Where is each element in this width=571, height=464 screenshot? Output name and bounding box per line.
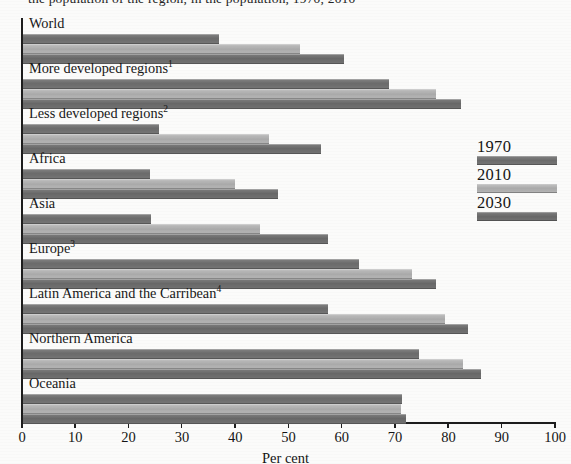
category-label: Oceania <box>29 376 76 391</box>
legend-swatch-2030 <box>477 212 557 221</box>
x-tick-label: 10 <box>68 429 83 446</box>
bar-1970 <box>23 34 219 44</box>
bar-2010 <box>23 44 300 54</box>
category-footnote: 1 <box>168 59 173 69</box>
legend-item-2010: 2010 <box>477 166 559 194</box>
legend-swatch-2010 <box>477 184 557 193</box>
bar-2010 <box>23 134 269 144</box>
chart-legend: 1970 2010 2030 <box>477 138 559 222</box>
x-tick-label: 80 <box>441 429 456 446</box>
legend-label-2030: 2030 <box>477 194 559 211</box>
x-tick-label: 20 <box>121 429 136 446</box>
category-label: Asia <box>29 196 55 211</box>
category-label: World <box>29 16 64 31</box>
bar-2010 <box>23 359 463 369</box>
x-tick <box>447 422 449 428</box>
x-tick-label: 0 <box>18 429 25 446</box>
bar-1970 <box>23 349 419 359</box>
bar-2030 <box>23 414 406 424</box>
legend-label-1970: 1970 <box>477 138 559 155</box>
category-label: Latin America and the Carribean4 <box>29 286 221 301</box>
x-tick-label: 60 <box>335 429 350 446</box>
bar-2010 <box>23 179 235 189</box>
category-label: Northern America <box>29 331 133 346</box>
category-footnote: 3 <box>70 239 75 249</box>
x-tick-label: 90 <box>494 429 509 446</box>
bar-1970 <box>23 259 359 269</box>
caption-fragment: the population of the region, in the pop… <box>28 0 548 7</box>
category-label: More developed regions1 <box>29 61 173 76</box>
category-label: Less developed regions2 <box>29 106 168 121</box>
category-label: Europe3 <box>29 241 75 256</box>
legend-label-2010: 2010 <box>477 166 559 183</box>
bar-2010 <box>23 269 412 279</box>
bar-2010 <box>23 89 436 99</box>
legend-swatch-1970 <box>477 156 557 165</box>
x-tick-label: 40 <box>228 429 243 446</box>
bar-2030 <box>23 144 321 154</box>
bar-1970 <box>23 79 389 89</box>
category-label: Africa <box>29 151 66 166</box>
bar-2030 <box>23 369 481 379</box>
x-tick-label: 70 <box>388 429 403 446</box>
category-footnote: 2 <box>163 104 168 114</box>
x-tick-label: 50 <box>281 429 296 446</box>
bar-1970 <box>23 214 151 224</box>
bar-1970 <box>23 169 150 179</box>
category-footnote: 4 <box>216 284 221 294</box>
chart-page: the population of the region, in the pop… <box>0 0 571 464</box>
bar-2010 <box>23 404 401 414</box>
legend-item-2030: 2030 <box>477 194 559 222</box>
bar-2010 <box>23 224 260 234</box>
legend-item-1970: 1970 <box>477 138 559 166</box>
bar-2010 <box>23 314 445 324</box>
bar-2030 <box>23 189 278 199</box>
x-axis-title: Per cent <box>0 450 571 464</box>
plot-area: 0102030405060708090100 WorldMore develop… <box>0 16 571 464</box>
x-tick-label: 30 <box>175 429 190 446</box>
bar-1970 <box>23 124 159 134</box>
x-tick-label: 100 <box>544 429 566 446</box>
bar-1970 <box>23 394 402 404</box>
bar-1970 <box>23 304 328 314</box>
x-tick <box>501 422 503 428</box>
x-tick <box>554 422 556 428</box>
